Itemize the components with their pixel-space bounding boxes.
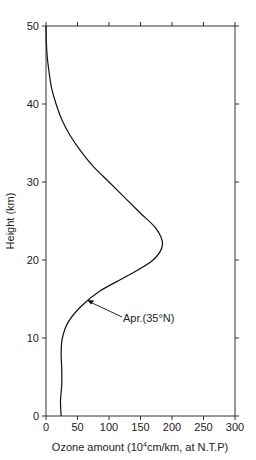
x-tick-label: 150 (131, 421, 149, 433)
ozone-curve (46, 26, 163, 416)
annotation-label: Apr.(35°N) (123, 312, 174, 324)
axis-ticks: 05010015020025030001020304050 (27, 20, 244, 433)
x-tick-label: 0 (43, 421, 49, 433)
y-tick-label: 30 (27, 176, 39, 188)
y-tick-label: 40 (27, 98, 39, 110)
x-tick-label: 200 (163, 421, 181, 433)
x-tick-label: 250 (194, 421, 212, 433)
y-tick-label: 0 (33, 410, 39, 422)
y-tick-label: 20 (27, 254, 39, 266)
y-tick-label: 10 (27, 332, 39, 344)
x-tick-label: 100 (100, 421, 118, 433)
y-tick-label: 50 (27, 20, 39, 32)
x-tick-label: 300 (226, 421, 244, 433)
x-tick-label: 50 (71, 421, 83, 433)
annotation: Apr.(35°N) (87, 300, 174, 324)
y-axis-label: Height (km) (4, 193, 16, 250)
ozone-profile-chart: 05010015020025030001020304050 Apr.(35°N)… (0, 0, 256, 460)
x-axis-label: Ozone amount (104cm/km, at N.T.P) (52, 441, 228, 453)
plot-frame (46, 26, 235, 416)
